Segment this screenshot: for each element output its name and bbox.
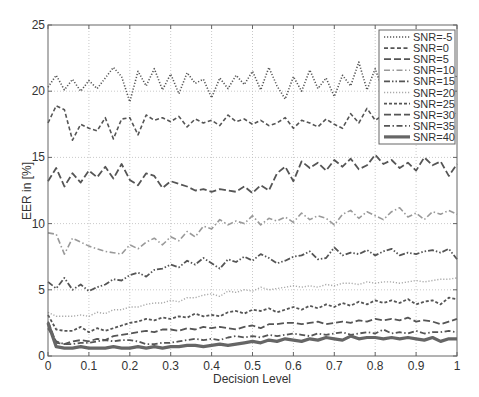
x-tick-label: 0.3 bbox=[162, 359, 179, 373]
x-axis-label: Decision Level bbox=[213, 372, 291, 386]
eer-line-chart: 00.10.20.30.40.50.60.70.80.91 0510152025… bbox=[0, 0, 479, 397]
x-tick-label: 0.9 bbox=[408, 359, 425, 373]
x-tick-label: 0.6 bbox=[285, 359, 302, 373]
legend-label: SNR=40 bbox=[413, 131, 455, 143]
y-tick-label: 25 bbox=[32, 18, 46, 32]
x-tick-label: 0.2 bbox=[121, 359, 138, 373]
x-tick-label: 1 bbox=[454, 359, 461, 373]
y-axis-label: EER in [%] bbox=[20, 162, 34, 220]
x-tick-label: 0.7 bbox=[326, 359, 343, 373]
x-tick-label: 0 bbox=[45, 359, 52, 373]
y-tick-label: 20 bbox=[32, 84, 46, 98]
x-tick-label: 0.1 bbox=[81, 359, 98, 373]
x-tick-label: 0.5 bbox=[244, 359, 261, 373]
x-tick-label: 0.4 bbox=[203, 359, 220, 373]
x-tick-label: 0.8 bbox=[367, 359, 384, 373]
y-tick-label: 5 bbox=[38, 283, 45, 297]
legend: SNR=-5SNR=0SNR=5SNR=10SNR=15SNR=20SNR=25… bbox=[379, 30, 455, 144]
y-tick-label: 0 bbox=[38, 349, 45, 363]
